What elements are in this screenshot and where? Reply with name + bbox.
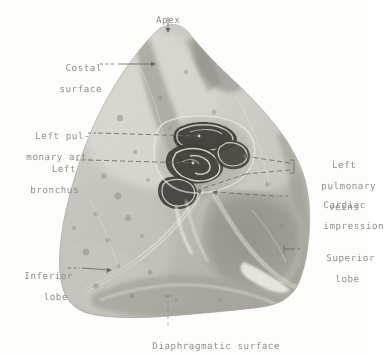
label-superior-lobe: Superior lobe [302,243,368,296]
diaphragmatic-surface-shading [92,275,288,317]
tissue-mottling [72,70,285,302]
superior-pulmonary-vein-lumen [215,140,250,170]
leader-lines [68,17,300,326]
label-inferior-lobe: Inferior lobe [0,261,68,314]
label-cardiac-impression: Cardiac impression [299,190,369,243]
oblique-fissure [86,184,206,290]
left-pulmonary-artery-lumen [173,122,237,153]
left-bronchus-lumen [166,144,224,183]
label-costal-surface: Costal surface [26,53,102,106]
label-diaphragmatic-surface: Diaphragmatic surface [128,331,328,354]
cardiac-impression-shading [202,191,305,293]
label-apex: Apex [124,5,188,37]
inferior-pulmonary-vein-lumen [158,176,197,209]
hilum [154,116,255,262]
label-left-bronchus: Left bronchus [6,154,76,207]
